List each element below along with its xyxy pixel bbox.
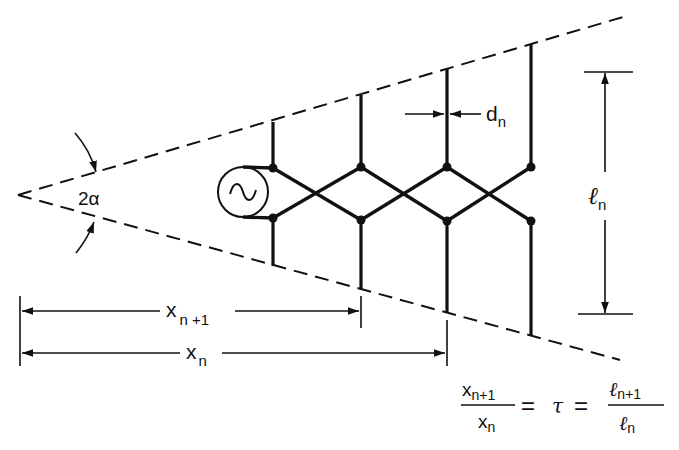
scaling-equation: xn+1 xn = τ = ℓn+1 ℓn [461, 377, 664, 436]
svg-text:ℓn: ℓn [619, 411, 635, 436]
svg-text:xn: xn [478, 411, 495, 435]
spacing-dn-dimension: dn [405, 102, 506, 130]
svg-text:=: = [574, 392, 588, 419]
x-dimensions: xn +1 xn [20, 296, 447, 369]
ac-generator-icon [218, 167, 273, 218]
angle-label: 2α [78, 188, 100, 209]
angle-arrow-top [75, 133, 96, 172]
xn1-label: xn +1 [166, 298, 209, 328]
svg-text:ℓn+1: ℓn+1 [609, 377, 641, 402]
angle-arrow-bottom [76, 222, 94, 253]
angle-indicator: 2α [75, 133, 100, 253]
xn-label: xn [186, 340, 207, 369]
crossed-feed-lines [273, 167, 531, 221]
svg-text:=: = [521, 392, 535, 419]
dn-label: dn [486, 102, 506, 130]
svg-text:xn+1: xn+1 [462, 379, 495, 403]
length-ln-dimension: ℓn [578, 72, 633, 314]
svg-text:τ: τ [552, 394, 564, 418]
ln-label: ℓn [588, 182, 606, 213]
log-periodic-antenna-diagram: 2α dn [0, 0, 679, 450]
